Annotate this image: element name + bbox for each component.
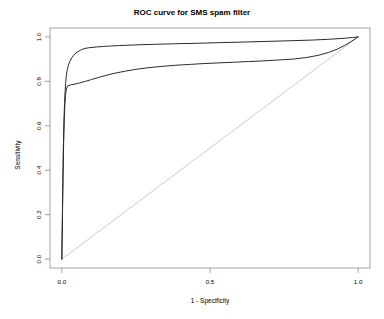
x-tick-label: 1.0: [354, 278, 363, 285]
y-tick-label: 0.2: [35, 210, 42, 219]
chart-title: ROC curve for SMS spam filter: [134, 8, 250, 17]
chance-diagonal-line: [62, 37, 358, 259]
x-axis-tick-labels: 0.00.51.0: [58, 278, 363, 285]
y-axis-ticks: [45, 37, 50, 259]
y-tick-label: 0.6: [35, 121, 42, 130]
x-axis-ticks: [62, 268, 358, 273]
y-tick-label: 0.8: [35, 76, 42, 85]
y-tick-label: 1.0: [35, 32, 42, 41]
y-axis-label: Sensitivity: [14, 140, 22, 170]
x-axis-label: 1 - Specificity: [191, 297, 230, 305]
roc-chart-container: ROC curve for SMS spam filter 0.00.51.0 …: [0, 0, 384, 319]
y-tick-label: 0.0: [35, 254, 42, 263]
y-tick-label: 0.4: [35, 165, 42, 174]
x-tick-label: 0.0: [58, 278, 67, 285]
x-tick-label: 0.5: [206, 278, 215, 285]
y-axis-tick-labels: 0.00.20.40.60.81.0: [35, 32, 42, 263]
roc-chart-svg: ROC curve for SMS spam filter 0.00.51.0 …: [0, 0, 384, 319]
